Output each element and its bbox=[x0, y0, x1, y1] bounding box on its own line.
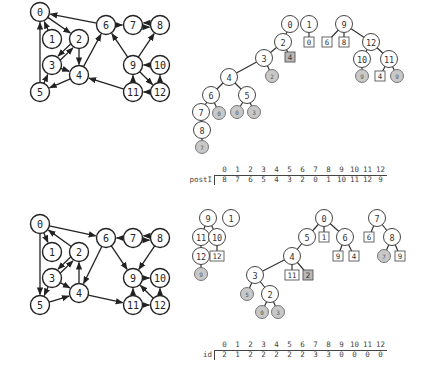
edge-6-to-9 bbox=[111, 246, 127, 269]
node-label: 1 bbox=[322, 233, 327, 242]
node-label: 0 bbox=[287, 20, 292, 30]
node-label: 4 bbox=[352, 252, 357, 261]
node-label: 9 bbox=[205, 214, 210, 224]
node-label: 9 bbox=[395, 73, 399, 80]
vertex-label: 4 bbox=[76, 288, 82, 299]
vertex-2: 2 bbox=[70, 30, 89, 49]
node-label: 4 bbox=[288, 53, 293, 62]
nontree-edge-box: 0 bbox=[304, 37, 314, 47]
node-label: 11 bbox=[287, 271, 296, 280]
index-cell: 3 bbox=[257, 165, 270, 174]
node-label: 1 bbox=[306, 20, 311, 30]
vertex-label: 12 bbox=[154, 300, 166, 311]
bottom-dfs-forest: 9111101212905169441123520376879 bbox=[193, 210, 406, 319]
node-label: 9 bbox=[336, 252, 341, 261]
tree-node: 1 bbox=[301, 16, 318, 33]
value-cell: 2 bbox=[283, 350, 296, 359]
edge-9-to-6 bbox=[112, 34, 128, 57]
node-label: 8 bbox=[389, 233, 394, 243]
value-cell: 2 bbox=[296, 350, 309, 359]
value-cell: 2 bbox=[270, 350, 283, 359]
value-cell: 3 bbox=[322, 350, 335, 359]
tree-node: 0 bbox=[282, 16, 299, 33]
array-label: id bbox=[203, 350, 212, 359]
visited-node: 9 bbox=[391, 70, 404, 83]
vertex-label: 4 bbox=[76, 70, 82, 81]
tree-node: 11 bbox=[193, 229, 210, 246]
vertex-label: 12 bbox=[154, 87, 166, 98]
node-label: 8 bbox=[342, 38, 347, 47]
index-cell: 0 bbox=[218, 165, 231, 174]
node-label: 5 bbox=[244, 91, 249, 101]
top-digraph: 0123456789101112 bbox=[31, 3, 170, 102]
edge-5-to-4 bbox=[49, 296, 69, 302]
edge-9-to-8 bbox=[138, 34, 154, 57]
edge-2-to-3 bbox=[58, 257, 71, 269]
value-cell: 0 bbox=[348, 350, 361, 359]
tree-node: 7 bbox=[369, 210, 386, 227]
vertex-label: 1 bbox=[49, 247, 55, 258]
tree-node: 9 bbox=[336, 16, 353, 33]
vertex-8: 8 bbox=[151, 229, 170, 248]
node-label: 0 bbox=[307, 38, 312, 47]
edge-0-to-6 bbox=[49, 226, 95, 236]
tree-node: 12 bbox=[363, 34, 380, 51]
edge-3-to-5 bbox=[44, 287, 48, 296]
vertex-6: 6 bbox=[97, 16, 116, 35]
edge-3-to-4 bbox=[61, 68, 69, 71]
edge-1-to-0 bbox=[44, 22, 48, 31]
edge-0-to-1 bbox=[44, 233, 48, 243]
diagram-canvas: 0123456789101112 02432465700387109681210… bbox=[0, 0, 427, 375]
vertex-label: 7 bbox=[130, 20, 136, 31]
tree-node: 9 bbox=[200, 210, 217, 227]
edge-2-to-3 bbox=[58, 44, 71, 56]
node-label: 9 bbox=[199, 271, 203, 278]
vertex-label: 7 bbox=[130, 233, 136, 244]
node-label: 0 bbox=[321, 214, 326, 224]
index-cell: 6 bbox=[296, 165, 309, 174]
node-label: 2 bbox=[270, 73, 274, 80]
vertex-label: 0 bbox=[37, 7, 43, 18]
value-cell: 0 bbox=[309, 175, 322, 184]
nontree-edge-box: 4 bbox=[375, 71, 385, 81]
vertex-5: 5 bbox=[31, 83, 50, 102]
vertex-4: 4 bbox=[70, 66, 89, 85]
node-label: 3 bbox=[252, 271, 257, 281]
vertex-label: 2 bbox=[76, 247, 82, 258]
vertex-0: 0 bbox=[31, 215, 50, 234]
index-cell: 10 bbox=[348, 340, 361, 349]
divider bbox=[214, 350, 387, 351]
node-label: 2 bbox=[306, 271, 311, 280]
vertex-3: 3 bbox=[43, 56, 62, 75]
tree-node: 5 bbox=[299, 229, 316, 246]
node-label: 4 bbox=[378, 72, 383, 81]
visited-node: 0 bbox=[231, 106, 244, 119]
value-cell: 0 bbox=[335, 350, 348, 359]
index-cell: 4 bbox=[270, 165, 283, 174]
index-cell: 12 bbox=[374, 165, 387, 174]
vertex-1: 1 bbox=[43, 243, 62, 262]
vertex-5: 5 bbox=[31, 296, 50, 315]
index-cell: 2 bbox=[244, 165, 257, 174]
vertex-12: 12 bbox=[151, 83, 170, 102]
nontree-edge-box: 9 bbox=[395, 251, 405, 261]
vertex-10: 10 bbox=[151, 269, 170, 288]
node-label: 9 bbox=[360, 73, 364, 80]
index-cell: 10 bbox=[348, 165, 361, 174]
index-cell: 5 bbox=[283, 340, 296, 349]
tree-node: 3 bbox=[256, 50, 273, 67]
vertex-1: 1 bbox=[43, 30, 62, 49]
vertex-label: 5 bbox=[37, 300, 43, 311]
tree-node: 8 bbox=[194, 122, 211, 139]
index-cell: 5 bbox=[283, 165, 296, 174]
edge-3-to-2 bbox=[60, 261, 73, 273]
nontree-edge-box: 4 bbox=[349, 251, 359, 261]
visited-node: 7 bbox=[378, 250, 391, 263]
vertex-label: 6 bbox=[103, 233, 109, 244]
vertex-7: 7 bbox=[124, 16, 143, 35]
visited-node: 3 bbox=[248, 106, 261, 119]
vertex-11: 11 bbox=[124, 83, 143, 102]
vertex-7: 7 bbox=[124, 229, 143, 248]
tree-node: 2 bbox=[275, 34, 292, 51]
node-label: 7 bbox=[382, 253, 386, 260]
